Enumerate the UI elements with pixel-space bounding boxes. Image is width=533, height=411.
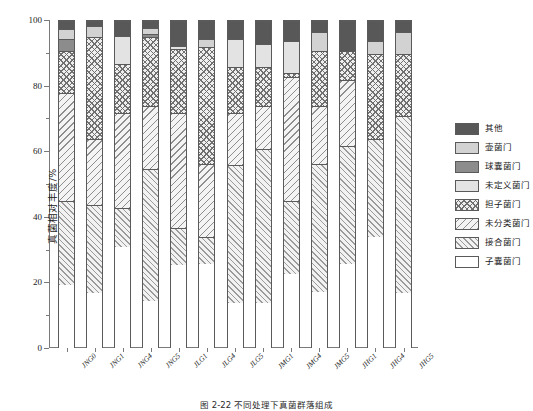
y-tick <box>44 348 49 349</box>
legend: 其他壶菌门球囊菌门未定义菌门担子菌门未分类菌门接合菌门子囊菌门 <box>455 120 533 272</box>
bar-segment-unclassified <box>256 106 271 149</box>
bar-segment-other <box>143 21 158 28</box>
bar-segment-zygomycota <box>368 139 383 237</box>
bar-JNG5[interactable] <box>142 20 159 348</box>
figure-canvas: 020406080100 真菌相对丰度/% JNG0JNG1JNG4JNG5JL… <box>0 0 533 411</box>
legend-swatch-undefined <box>455 180 479 192</box>
legend-label: 球囊菌门 <box>485 162 521 171</box>
x-label-JMG4: JMG4 <box>305 352 324 371</box>
bar-segment-ascomycota <box>171 265 186 349</box>
bar-segment-other <box>59 21 74 29</box>
plot-area: 020406080100 <box>49 20 418 348</box>
bar-segment-undefined <box>256 44 271 67</box>
legend-item-unclassified[interactable]: 未分类菌门 <box>455 215 533 232</box>
bar-segment-zygomycota <box>171 228 186 266</box>
bar-segment-other <box>256 21 271 44</box>
legend-item-basidiomycota[interactable]: 担子菌门 <box>455 196 533 213</box>
x-label-JHG1: JHG1 <box>361 352 379 370</box>
bar-JNG0[interactable] <box>58 20 75 348</box>
bar-segment-basidiomycota <box>312 51 327 107</box>
bar-JLG5[interactable] <box>227 20 244 348</box>
x-label-JMG5: JMG5 <box>333 352 352 371</box>
bar-segment-ascomycota <box>284 274 299 349</box>
bar-segment-basidiomycota <box>59 51 74 94</box>
bar-JMG5[interactable] <box>311 20 328 348</box>
bar-segment-basidiomycota <box>340 51 355 81</box>
bar-segment-undefined <box>284 41 299 74</box>
bar-segment-ascomycota <box>368 237 383 349</box>
x-label-JLG5: JLG5 <box>248 352 265 369</box>
bar-segment-ascomycota <box>87 293 102 349</box>
legend-item-ascomycota[interactable]: 子囊菌门 <box>455 253 533 270</box>
x-label-JNG5: JNG5 <box>164 352 182 370</box>
bar-segment-basidiomycota <box>115 64 130 113</box>
legend-swatch-unclassified <box>455 218 479 230</box>
bar-segment-zygomycota <box>396 116 411 293</box>
bar-segment-blastocladiomycota <box>143 34 158 37</box>
y-tick-label: 0 <box>38 344 43 353</box>
legend-item-chytridiomycota[interactable]: 壶菌门 <box>455 139 533 156</box>
y-tick-label: 20 <box>33 278 42 287</box>
legend-item-blastocladiomycota[interactable]: 球囊菌门 <box>455 158 533 175</box>
x-label-JMG1: JMG1 <box>277 352 296 371</box>
x-label-JLG1: JLG1 <box>192 352 209 369</box>
bar-JNG1[interactable] <box>86 20 103 348</box>
bar-JHG4[interactable] <box>367 20 384 348</box>
bar-segment-chytridiomycota <box>87 26 102 37</box>
x-label-JLG4: JLG4 <box>220 352 237 369</box>
bar-segment-ascomycota <box>199 264 214 349</box>
bar-JLG4[interactable] <box>198 20 215 348</box>
bar-segment-basidiomycota <box>87 37 102 139</box>
bar-segment-zygomycota <box>115 208 130 247</box>
x-label-JNG1: JNG1 <box>108 352 126 370</box>
bar-segment-other <box>199 21 214 39</box>
bar-segment-unclassified <box>199 164 214 238</box>
legend-swatch-basidiomycota <box>455 199 479 211</box>
bar-segment-basidiomycota <box>368 54 383 139</box>
legend-label: 未分类菌门 <box>485 219 530 228</box>
bar-segment-undefined <box>171 46 186 49</box>
legend-item-other[interactable]: 其他 <box>455 120 533 137</box>
bar-segment-unclassified <box>87 139 102 205</box>
legend-label: 子囊菌门 <box>485 257 521 266</box>
bar-segment-zygomycota <box>228 165 243 303</box>
bar-segment-chytridiomycota <box>59 29 74 39</box>
y-tick-label: 60 <box>33 147 42 156</box>
bar-segment-unclassified <box>312 106 327 163</box>
legend-swatch-other <box>455 123 479 135</box>
bar-segment-undefined <box>228 39 243 67</box>
bar-segment-zygomycota <box>199 237 214 263</box>
bar-segment-zygomycota <box>284 201 299 273</box>
bar-segment-basidiomycota <box>199 47 214 163</box>
x-label-JHG5: JHG5 <box>417 352 435 370</box>
bar-JNG4[interactable] <box>114 20 131 348</box>
y-axis-label: 真菌相对丰度/% <box>45 168 59 243</box>
bar-segment-zygomycota <box>256 149 271 303</box>
bar-segment-basidiomycota <box>396 54 411 116</box>
bar-segment-unclassified <box>171 113 186 228</box>
legend-swatch-chytridiomycota <box>455 142 479 154</box>
bar-segment-zygomycota <box>59 201 74 285</box>
legend-item-undefined[interactable]: 未定义菌门 <box>455 177 533 194</box>
legend-item-zygomycota[interactable]: 接合菌门 <box>455 234 533 251</box>
bar-segment-zygomycota <box>340 146 355 264</box>
bar-segment-basidiomycota <box>143 37 158 106</box>
bar-segment-other <box>171 21 186 46</box>
bar-JMG4[interactable] <box>283 20 300 348</box>
bar-JLG1[interactable] <box>170 20 187 348</box>
bar-segment-ascomycota <box>143 301 158 349</box>
bar-segment-basidiomycota <box>228 67 243 113</box>
bar-segment-other <box>312 21 327 32</box>
bar-JHG5[interactable] <box>395 20 412 348</box>
bar-segment-chytridiomycota <box>312 32 327 50</box>
bar-JMG1[interactable] <box>255 20 272 348</box>
bar-JHG1[interactable] <box>339 20 356 348</box>
bar-segment-zygomycota <box>87 205 102 294</box>
bar-segment-other <box>284 21 299 41</box>
bar-segment-unclassified <box>228 113 243 165</box>
y-tick-label: 80 <box>33 81 42 90</box>
legend-label: 壶菌门 <box>485 143 512 152</box>
bar-segment-ascomycota <box>396 293 411 349</box>
bar-segment-ascomycota <box>340 264 355 349</box>
bar-segment-other <box>115 21 130 36</box>
